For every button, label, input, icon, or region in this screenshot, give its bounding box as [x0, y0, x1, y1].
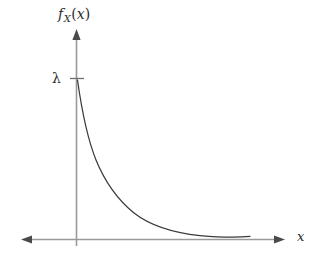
- y-axis-label-argument: x: [77, 6, 85, 22]
- y-axis-label-f: f: [58, 6, 63, 22]
- x-axis-arrow-left-icon: [21, 235, 32, 243]
- plot-canvas: [0, 0, 319, 265]
- x-axis-arrow-right-icon: [274, 235, 285, 243]
- y-axis: [72, 29, 80, 246]
- y-axis-label-subscript: X: [64, 13, 71, 24]
- x-axis-label: x: [297, 230, 304, 243]
- y-axis-arrow-up-icon: [72, 29, 80, 40]
- y-axis-label: fX(x): [58, 7, 90, 24]
- lambda-tick-label: λ: [52, 71, 61, 85]
- exponential-pdf-figure: fX(x) λ x: [0, 0, 319, 265]
- y-axis-label-close-paren: ): [85, 6, 90, 22]
- exponential-pdf-curve: [78, 80, 251, 237]
